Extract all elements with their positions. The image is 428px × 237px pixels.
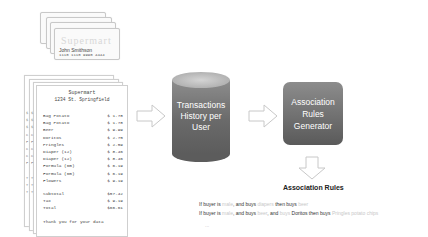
receipt-line: Pringles$ 2.59	[43, 141, 123, 148]
rules-ellipsis: ...	[205, 222, 209, 228]
receipt-subtotal: Subtotal$57.42	[43, 190, 123, 197]
rule-2: If buyer is male, and buys beer, and buy…	[199, 210, 378, 216]
receipt-line: Flowers$ 9.19	[43, 177, 123, 184]
receipt-line: Doritos$ 2.75	[43, 134, 123, 141]
receipt-line: Formula (6m)$ 6.19	[43, 162, 123, 169]
receipt-line: Diaper (12)$ 8.46	[43, 155, 123, 162]
receipt-line: Bag Potato$ 1.78	[43, 112, 123, 119]
receipt-thanks: Thank you for your data	[37, 219, 127, 224]
transactions-database: Transactions History per User	[172, 72, 230, 162]
association-rules-generator: Association Rules Generator	[283, 82, 343, 145]
credit-card-front: Supermart John Smithson 1110 1110 9990 4…	[54, 28, 120, 60]
card-number: 1110 1110 9990 4444	[59, 53, 105, 57]
receipt-address: 1234 St. Springfield	[37, 97, 127, 102]
receipt-line: Bag Potato$ 1.78	[43, 119, 123, 126]
association-rules-title: Association Rules	[283, 184, 344, 191]
down-arrow-icon	[298, 156, 326, 180]
receipt-front: Supermart 1234 St. Springfield Bag Potat…	[36, 85, 128, 237]
generator-label: Association Rules Generator	[291, 96, 334, 132]
receipt-total: Total$66.61	[43, 204, 123, 211]
card-brand: Supermart	[61, 35, 112, 46]
database-label: Transactions History per User	[172, 100, 230, 133]
receipt-line: Beer$ 9.99	[43, 126, 123, 133]
receipt-line: Diaper (12)$ 8.46	[43, 148, 123, 155]
rule-1: If buyer is male, and buys diapers then …	[199, 201, 308, 207]
right-arrow-icon	[248, 104, 278, 128]
right-arrow-icon	[136, 104, 166, 128]
receipt-edge-text: $$$CFCCFTTT	[31, 110, 33, 196]
receipt-edge-text: $$$CFCCFTTT	[26, 110, 28, 196]
receipt-line: Formula (6m)$ 6.19	[43, 170, 123, 177]
receipt-items: Bag Potato$ 1.78 Bag Potato$ 1.78 Beer$ …	[37, 112, 127, 212]
receipt-tax: Tax$ 9.19	[43, 197, 123, 204]
receipt-store-name: Supermart	[37, 90, 127, 96]
